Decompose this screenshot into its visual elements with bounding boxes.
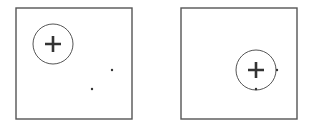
panel-frame <box>181 8 297 119</box>
plus-icon <box>248 62 264 78</box>
diagram-canvas <box>0 0 315 124</box>
left-panel <box>16 8 132 119</box>
point-dot <box>111 69 113 71</box>
point-dot <box>276 69 278 71</box>
right-panel <box>181 8 297 119</box>
point-dot <box>91 88 93 90</box>
plus-icon <box>45 36 61 52</box>
point-dot <box>255 88 257 90</box>
panel-frame <box>16 8 132 119</box>
